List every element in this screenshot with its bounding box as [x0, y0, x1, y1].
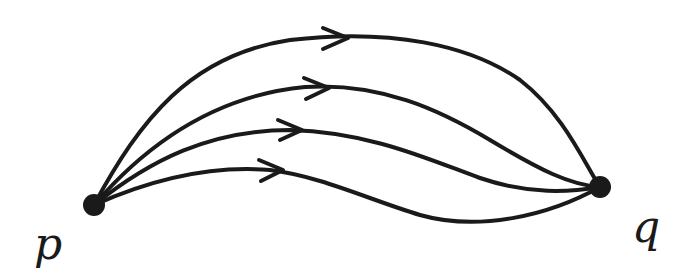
node-q	[589, 176, 611, 198]
path-4	[94, 169, 600, 222]
node-p	[83, 194, 105, 216]
paths-diagram	[0, 0, 689, 279]
label-q: q	[632, 205, 660, 249]
label-p: p	[34, 222, 62, 266]
path-3	[94, 130, 600, 205]
